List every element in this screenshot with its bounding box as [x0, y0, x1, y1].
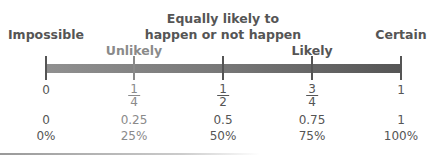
percent-three-quarters: 75%: [299, 129, 326, 143]
decimal-three-quarters: 0.75: [299, 113, 326, 127]
label-certain: Certain: [375, 27, 426, 42]
fraction-half: 1 2: [217, 83, 229, 109]
decimal-1: 1: [397, 113, 405, 127]
percent-0: 0%: [36, 129, 55, 143]
fraction-0: 0: [42, 83, 50, 97]
decimal-quarter: 0.25: [121, 113, 148, 127]
label-equally-line1: Equally likely to: [167, 11, 279, 26]
decimal-0: 0: [42, 113, 50, 127]
percent-quarter: 25%: [121, 129, 148, 143]
decimal-half: 0.5: [213, 113, 232, 127]
tick-1: [400, 56, 402, 80]
percent-half: 50%: [210, 129, 237, 143]
tick-half: [222, 56, 224, 80]
label-equally-line2: happen or not happen: [145, 27, 301, 42]
fraction-1: 1: [397, 83, 405, 97]
fraction-three-quarters: 3 4: [306, 83, 318, 109]
fraction-quarter: 1 4: [128, 83, 140, 109]
label-impossible: Impossible: [8, 27, 84, 42]
tick-0: [45, 56, 47, 80]
divider-line: [0, 153, 260, 155]
tick-quarter: [133, 56, 135, 80]
percent-1: 100%: [384, 129, 418, 143]
tick-three-quarters: [311, 56, 313, 80]
